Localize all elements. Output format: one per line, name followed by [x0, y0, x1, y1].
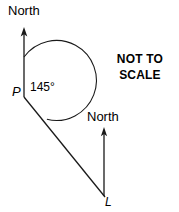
point-label-l: L — [105, 196, 112, 208]
point-label-p: P — [12, 85, 21, 98]
north-label-at-l: North — [87, 110, 119, 123]
angle-label: 145° — [30, 81, 55, 93]
bearing-diagram: North North P L 145° NOT TO SCALE — [0, 0, 179, 212]
not-to-scale-note: NOT TO SCALE — [106, 51, 174, 83]
not-to-scale-line-2: SCALE — [106, 67, 174, 83]
diagram-canvas — [0, 0, 179, 212]
not-to-scale-line-1: NOT TO — [106, 51, 174, 67]
north-label-at-p: North — [8, 4, 40, 17]
